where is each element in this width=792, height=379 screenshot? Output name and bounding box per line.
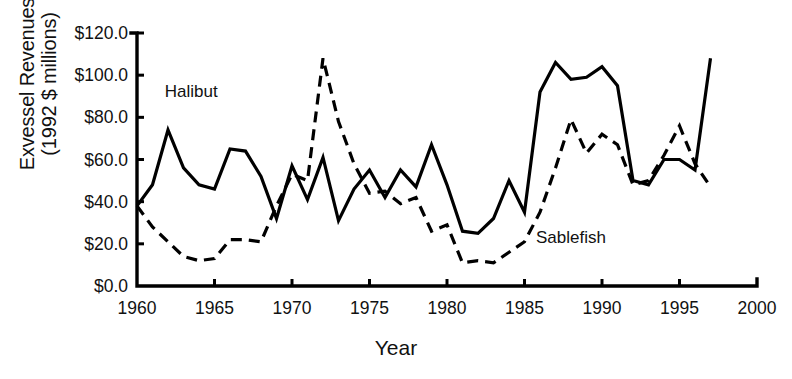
plot-area <box>0 0 792 379</box>
series-line-sablefish <box>137 58 711 263</box>
series-label-sablefish: Sablefish <box>536 228 606 248</box>
chart-figure: Exvessel Revenues (1992 $ millions) $0.0… <box>0 0 792 379</box>
series-label-halibut: Halibut <box>165 82 218 102</box>
series-line-halibut <box>137 58 711 233</box>
x-axis-title: Year <box>0 336 792 360</box>
